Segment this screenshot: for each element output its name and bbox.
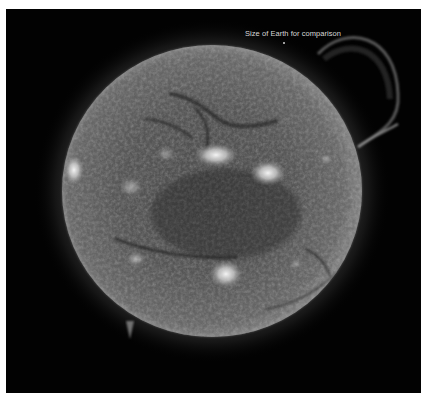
earth-scale-dot <box>283 42 285 44</box>
solar-image-frame: Size of Earth for comparison <box>6 9 421 393</box>
active-region-northeast <box>250 160 286 186</box>
active-region-south <box>209 260 243 288</box>
sun-illustration <box>6 9 421 393</box>
active-region-north <box>194 143 238 167</box>
earth-comparison-caption: Size of Earth for comparison <box>245 29 341 38</box>
